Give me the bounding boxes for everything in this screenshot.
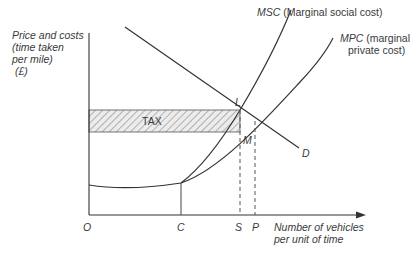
point-m-label: M (243, 134, 252, 146)
mpc-desc: (marginal (363, 32, 410, 44)
x-axis-label-line2: per unit of time (274, 233, 343, 245)
tax-area (89, 110, 240, 132)
x-axis-arrow-icon (356, 212, 366, 219)
mpc-abbr: MPC (340, 32, 363, 44)
msc-desc: (Marginal social cost) (280, 6, 382, 18)
mpc-desc-line2: private cost) (348, 44, 405, 56)
point-l-label: L (235, 96, 241, 108)
y-axis-label-line3: per mile) (12, 53, 53, 65)
y-axis-label-line4: (£) (12, 65, 28, 77)
demand-label: D (302, 147, 310, 159)
msc-abbr: MSC (257, 6, 280, 18)
y-axis-label-line1: Price and costs (12, 29, 84, 41)
tick-c-label: C (177, 221, 185, 233)
y-axis-label-line2: (time taken (12, 41, 64, 53)
mpc-label: MPC (marginal (340, 32, 410, 44)
tick-p-label: P (252, 221, 259, 233)
x-axis-label-line1: Number of vehicles (274, 221, 364, 233)
origin-label: O (83, 221, 91, 233)
tick-s-label: S (235, 221, 242, 233)
tax-label: TAX (142, 115, 162, 127)
msc-label: MSC (Marginal social cost) (257, 6, 382, 18)
